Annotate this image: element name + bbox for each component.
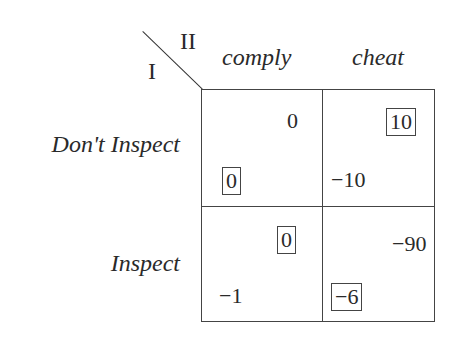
- column-label-cheat: cheat: [352, 44, 404, 71]
- cell-1-1-col-payoff: −90: [392, 233, 426, 255]
- cell-0-0-row-payoff-best: 0: [222, 167, 241, 195]
- player-i-label: I: [148, 58, 156, 85]
- row-divider: [202, 206, 434, 207]
- cell-1-0-row-payoff: −1: [219, 285, 242, 307]
- player-ii-label: II: [180, 28, 196, 55]
- payoff-matrix: 0 0 10 −10 0 −1 −90 −6: [201, 89, 435, 322]
- cell-0-0-col-payoff: 0: [287, 110, 298, 132]
- cell-1-0-col-payoff-best: 0: [277, 226, 296, 254]
- cell-1-1-row-payoff-best: −6: [331, 283, 362, 311]
- cell-0-1-col-payoff-best: 10: [386, 108, 416, 136]
- column-label-comply: comply: [222, 44, 291, 71]
- row-label-dont-inspect: Don't Inspect: [0, 131, 180, 158]
- row-label-inspect: Inspect: [0, 250, 180, 277]
- cell-0-1-row-payoff: −10: [331, 169, 365, 191]
